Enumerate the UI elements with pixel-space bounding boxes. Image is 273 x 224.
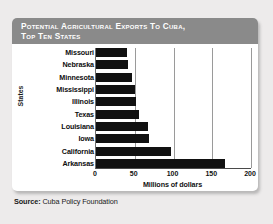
bar-row bbox=[96, 85, 251, 94]
x-tick-label: 100 bbox=[167, 170, 179, 177]
chart-header: Potential Agricultural Exports to Cuba, … bbox=[12, 18, 258, 44]
y-axis-title: States bbox=[17, 93, 24, 107]
bar-row bbox=[96, 48, 251, 57]
bar bbox=[96, 48, 127, 57]
category-label: Missouri bbox=[28, 48, 94, 57]
bar bbox=[96, 97, 136, 106]
bar-row bbox=[96, 60, 251, 69]
category-label: Iowa bbox=[28, 134, 94, 143]
bar bbox=[96, 110, 139, 119]
bar-row bbox=[96, 110, 251, 119]
category-label: Nebraska bbox=[28, 60, 94, 69]
page-title: Potential Agricultural Exports to Cuba, … bbox=[21, 22, 250, 41]
x-tick-label: 150 bbox=[205, 170, 217, 177]
bar bbox=[96, 60, 128, 69]
bar-row bbox=[96, 147, 251, 156]
bar bbox=[96, 159, 225, 168]
category-label: Arkansas bbox=[28, 159, 94, 168]
x-tick-label: 0 bbox=[93, 170, 97, 177]
x-tick-label: 200 bbox=[244, 170, 256, 177]
bar-row bbox=[96, 97, 251, 106]
plot-frame bbox=[95, 48, 251, 169]
category-label: Mississippi bbox=[28, 85, 94, 94]
chart-plot-area: States MissouriNebraskaMinnesotaMississi… bbox=[12, 44, 258, 191]
bar bbox=[96, 73, 132, 82]
chart-card: Potential Agricultural Exports to Cuba, … bbox=[12, 18, 258, 191]
category-label: Texas bbox=[28, 110, 94, 119]
bar bbox=[96, 85, 135, 94]
category-axis-labels: MissouriNebraskaMinnesotaMississippiIlli… bbox=[28, 48, 94, 168]
source-text: Cuba Policy Foundation bbox=[42, 197, 117, 206]
category-label: Illinois bbox=[28, 97, 94, 106]
bar-series bbox=[96, 48, 251, 168]
category-label: Louisiana bbox=[28, 122, 94, 131]
bar-row bbox=[96, 159, 251, 168]
source-label: Source: bbox=[14, 197, 40, 206]
bar bbox=[96, 134, 149, 143]
bar-row bbox=[96, 73, 251, 82]
bar bbox=[96, 147, 171, 156]
bar-row bbox=[96, 134, 251, 143]
category-label: California bbox=[28, 147, 94, 156]
category-label: Minnesota bbox=[28, 73, 94, 82]
gridline bbox=[251, 48, 252, 168]
x-axis-title: Millions of dollars bbox=[95, 180, 250, 189]
bar bbox=[96, 122, 148, 131]
x-tick-label: 50 bbox=[130, 170, 138, 177]
bar-row bbox=[96, 122, 251, 131]
source-note: Source: Cuba Policy Foundation bbox=[14, 197, 118, 206]
x-axis-ticks: 050100150200 bbox=[95, 170, 250, 180]
